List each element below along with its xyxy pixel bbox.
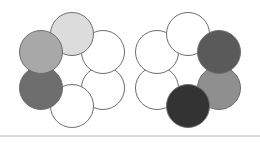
ring-right-node-bottom[interactable] bbox=[167, 85, 210, 128]
hexagon-rings-figure bbox=[0, 0, 260, 142]
figure-container bbox=[0, 0, 260, 142]
ring-left-node-upper-left[interactable] bbox=[20, 31, 63, 74]
ring-right-node-upper-right[interactable] bbox=[198, 31, 241, 74]
ring-right bbox=[136, 13, 241, 128]
ring-left bbox=[20, 13, 125, 128]
